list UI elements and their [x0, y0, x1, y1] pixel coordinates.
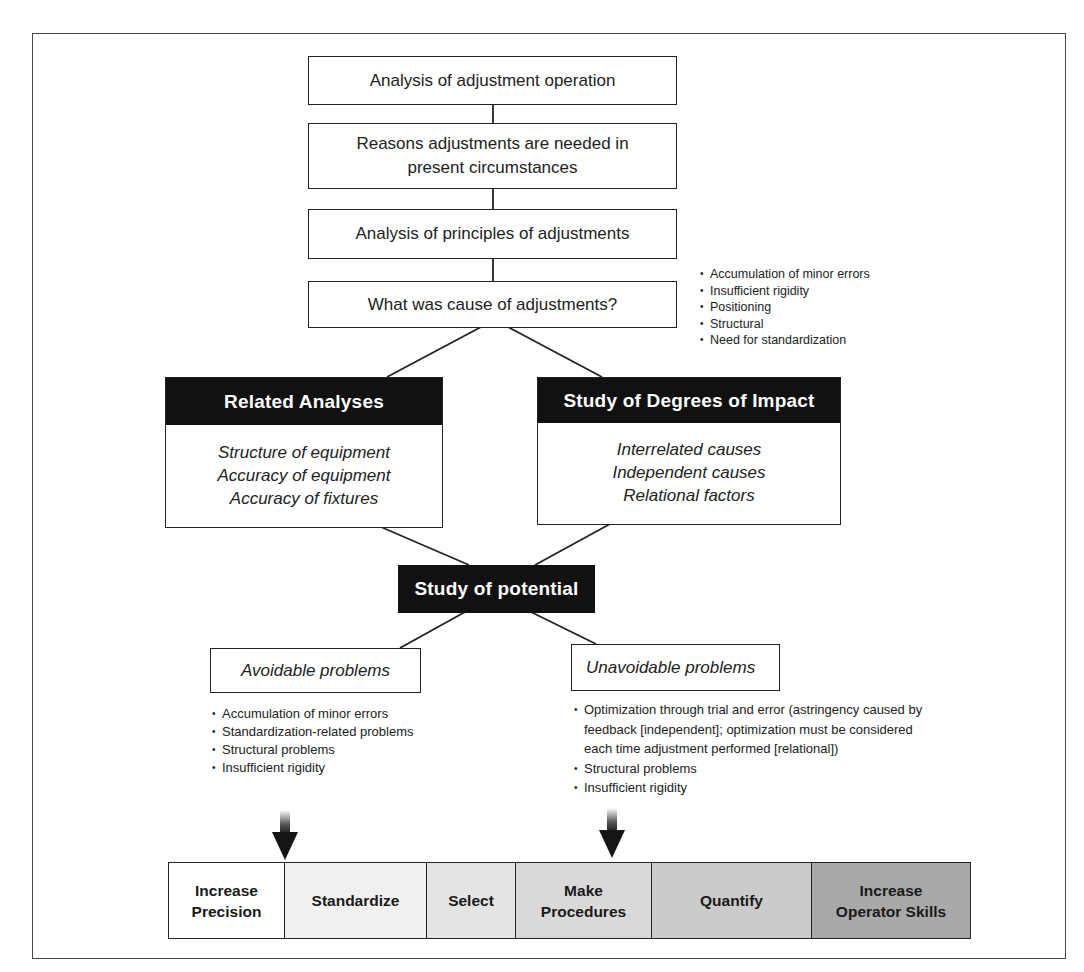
action-label: Select — [448, 890, 494, 911]
flow-box-label: What was cause of adjustments? — [368, 293, 617, 317]
cause-note: Need for standardization — [700, 332, 930, 349]
flow-box-label: Analysis of adjustment operation — [370, 69, 616, 93]
connector-related-potential — [381, 527, 469, 565]
action-increase-operator-skills: IncreaseOperator Skills — [812, 863, 970, 938]
down-arrow-icon — [599, 808, 625, 858]
degrees-of-impact-item: Relational factors — [623, 484, 754, 507]
connector-cause-degrees — [508, 327, 602, 377]
flow-box-cause-question: What was cause of adjustments? — [308, 281, 677, 328]
flow-box-principles: Analysis of principles of adjustments — [308, 209, 677, 259]
unavoidable-problem-item: Insufficient rigidity — [574, 778, 926, 798]
action-label: Procedures — [541, 901, 626, 922]
unavoidable-problems-box: Unavoidable problems — [571, 644, 780, 691]
avoidable-problem-item: Insufficient rigidity — [212, 759, 462, 777]
degrees-of-impact-body: Interrelated causes Independent causes R… — [538, 423, 840, 522]
related-analyses-body: Structure of equipment Accuracy of equip… — [166, 425, 442, 525]
avoidable-problems-title: Avoidable problems — [241, 659, 390, 683]
degrees-of-impact-title: Study of Degrees of Impact — [538, 378, 840, 423]
connector-potential-unavoidable — [531, 612, 596, 644]
related-analyses-item: Accuracy of equipment — [218, 464, 391, 487]
action-standardize: Standardize — [285, 863, 427, 938]
connector-degrees-potential — [535, 524, 610, 565]
action-label: Increase — [836, 880, 946, 901]
degrees-of-impact-panel: Study of Degrees of Impact Interrelated … — [537, 377, 841, 525]
avoidable-problem-item: Accumulation of minor errors — [212, 705, 462, 723]
related-analyses-item: Accuracy of fixtures — [230, 487, 378, 510]
down-arrow-icon — [272, 810, 298, 860]
action-strip: IncreasePrecision Standardize Select Mak… — [168, 862, 971, 939]
unavoidable-problems-title: Unavoidable problems — [586, 656, 755, 680]
avoidable-problems-box: Avoidable problems — [210, 648, 421, 693]
cause-notes-list: Accumulation of minor errors Insufficien… — [700, 266, 930, 349]
action-label: Make — [541, 880, 626, 901]
flow-box-label: Analysis of principles of adjustments — [355, 222, 629, 246]
action-quantify: Quantify — [652, 863, 812, 938]
unavoidable-problem-item: Optimization through trial and error (as… — [574, 700, 926, 759]
degrees-of-impact-item: Independent causes — [612, 461, 765, 484]
action-label: Standardize — [312, 890, 400, 911]
avoidable-problems-list: Accumulation of minor errors Standardiza… — [212, 705, 462, 777]
connector-cause-related — [387, 327, 481, 377]
related-analyses-panel: Related Analyses Structure of equipment … — [165, 377, 443, 528]
related-analyses-item: Structure of equipment — [218, 441, 390, 464]
degrees-of-impact-item: Interrelated causes — [617, 438, 762, 461]
cause-note: Structural — [700, 316, 930, 333]
study-of-potential-title: Study of potential — [414, 578, 578, 600]
action-make-procedures: MakeProcedures — [516, 863, 652, 938]
action-label: Increase — [192, 880, 262, 901]
unavoidable-problem-item: Structural problems — [574, 759, 926, 779]
flow-box-label: Reasons adjustments are needed in presen… — [349, 132, 636, 180]
unavoidable-problems-list: Optimization through trial and error (as… — [574, 700, 926, 798]
avoidable-problem-item: Standardization-related problems — [212, 723, 462, 741]
study-of-potential-box: Study of potential — [398, 565, 595, 613]
flow-box-analysis-of-operation: Analysis of adjustment operation — [308, 56, 677, 105]
action-select: Select — [427, 863, 516, 938]
related-analyses-title: Related Analyses — [166, 378, 442, 425]
cause-note: Insufficient rigidity — [700, 283, 930, 300]
cause-note: Accumulation of minor errors — [700, 266, 930, 283]
action-label: Precision — [192, 901, 262, 922]
avoidable-problem-item: Structural problems — [212, 741, 462, 759]
action-label: Quantify — [700, 890, 763, 911]
action-label: Operator Skills — [836, 901, 946, 922]
action-increase-precision: IncreasePrecision — [169, 863, 285, 938]
connector-potential-avoidable — [400, 612, 465, 648]
flow-box-reasons: Reasons adjustments are needed in presen… — [308, 123, 677, 189]
cause-note: Positioning — [700, 299, 930, 316]
